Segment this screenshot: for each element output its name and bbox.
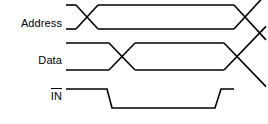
signal-waveform-in [66,89,234,108]
timing-diagram: Address Data IN [0,0,268,124]
data-cross1-up [224,26,266,70]
signal-label-address: Address [0,17,62,29]
signal-label-in: IN [0,88,62,102]
signal-label-in-text: IN [51,88,62,102]
signal-waveform-data [66,26,266,86]
signal-label-data: Data [0,54,62,66]
data-cross1-down [224,43,266,87]
in-pulse-path [66,89,234,108]
address-cross1-up [234,0,266,29]
address-cross1-down [234,5,266,40]
signal-waveform-address [66,0,266,40]
